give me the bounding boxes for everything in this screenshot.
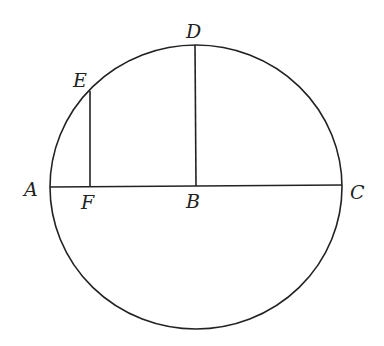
label-b: B	[186, 192, 200, 211]
diagram-svg	[0, 0, 384, 346]
radius-bd	[195, 45, 196, 186]
label-e: E	[73, 71, 87, 90]
geometry-diagram: A B C D E F	[0, 0, 384, 346]
label-d: D	[186, 22, 201, 41]
label-c: C	[350, 183, 365, 202]
label-a: A	[24, 180, 38, 199]
label-f: F	[81, 193, 94, 212]
